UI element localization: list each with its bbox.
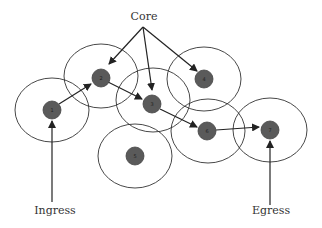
node-label-3: 3 xyxy=(150,101,153,107)
node-label-5: 5 xyxy=(133,153,136,159)
nodes xyxy=(43,69,279,165)
ingress-label: Ingress xyxy=(34,204,76,217)
node-label-6: 6 xyxy=(205,128,208,134)
node-label-1: 1 xyxy=(50,107,53,113)
node-label-2: 2 xyxy=(99,75,102,81)
diagram-svg: 1 2 3 4 5 6 7 xyxy=(0,0,322,228)
node-label-7: 7 xyxy=(268,127,271,133)
core-label: Core xyxy=(131,10,158,23)
node-label-4: 4 xyxy=(202,76,205,82)
egress-label: Egress xyxy=(252,204,290,217)
core-arrows xyxy=(109,27,197,90)
network-diagram: 1 2 3 4 5 6 7 Core Ingress Egress xyxy=(0,0,322,228)
